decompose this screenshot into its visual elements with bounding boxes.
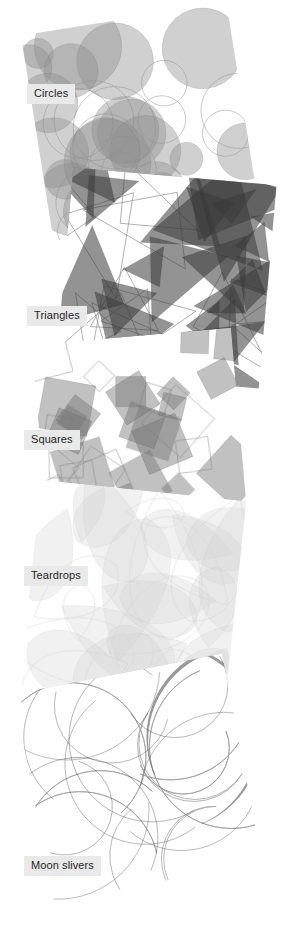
panel-label-circles: Circles bbox=[27, 84, 75, 104]
shape-sampler-figure: CirclesTrianglesSquaresTeardropsMoon sli… bbox=[0, 0, 287, 939]
panel-label-triangles: Triangles bbox=[27, 306, 87, 326]
panel-label-moon-slivers: Moon slivers bbox=[24, 856, 101, 876]
panel-label-teardrops: Teardrops bbox=[24, 566, 88, 586]
panel-label-squares: Squares bbox=[24, 430, 80, 450]
